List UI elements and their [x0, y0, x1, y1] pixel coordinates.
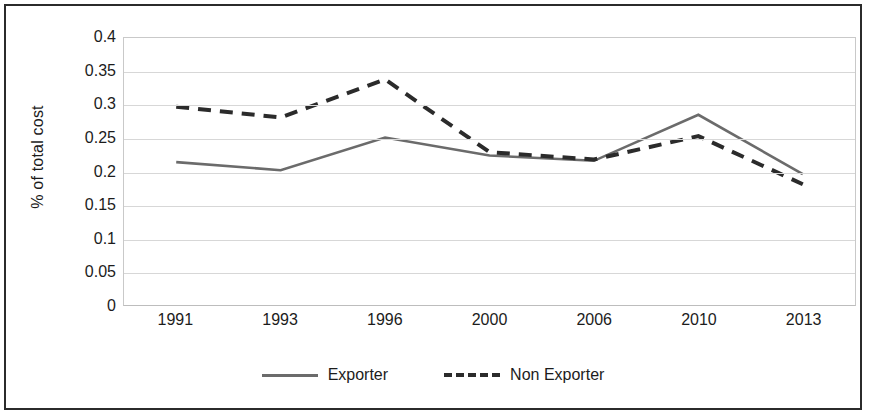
x-axis-tick-label: 2013 [754, 311, 854, 329]
series-lines [124, 38, 855, 305]
x-axis-tick-label: 1991 [125, 311, 225, 329]
gridline [124, 206, 855, 207]
legend-swatch-solid [262, 374, 318, 377]
y-axis-tick-labels: 00.050.10.150.20.250.30.350.4 [50, 37, 116, 306]
series-line-exporter [176, 115, 803, 174]
legend-swatch-dashed [444, 373, 500, 377]
x-axis-tick-label: 2006 [544, 311, 644, 329]
y-axis-tick-label: 0.35 [50, 62, 116, 80]
gridline [124, 72, 855, 73]
x-axis-tick-labels: 1991199319962000200620102013 [123, 311, 856, 341]
x-axis-tick-label: 1993 [230, 311, 330, 329]
y-axis-tick-label: 0.3 [50, 95, 116, 113]
figure-border: % of total cost 00.050.10.150.20.250.30.… [4, 4, 862, 410]
legend-item[interactable]: Exporter [262, 366, 388, 384]
y-axis-tick-label: 0.1 [50, 230, 116, 248]
gridline [124, 240, 855, 241]
y-axis-tick-label: 0.2 [50, 163, 116, 181]
y-axis-tick-label: 0.05 [50, 263, 116, 281]
gridline [124, 273, 855, 274]
gridline [124, 139, 855, 140]
gridline [124, 105, 855, 106]
plot-area [123, 37, 856, 306]
y-axis-tick-label: 0.15 [50, 196, 116, 214]
y-axis-tick-label: 0.4 [50, 28, 116, 46]
legend-label: Exporter [328, 366, 388, 384]
legend-label: Non Exporter [510, 366, 604, 384]
x-axis-tick-label: 1996 [335, 311, 435, 329]
chart-figure: % of total cost 00.050.10.150.20.250.30.… [0, 0, 870, 418]
gridline [124, 173, 855, 174]
x-axis-tick-label: 2000 [440, 311, 540, 329]
y-axis-tick-label: 0.25 [50, 129, 116, 147]
chart-legend: ExporterNon Exporter [6, 366, 860, 384]
y-axis-tick-label: 0 [50, 297, 116, 315]
legend-item[interactable]: Non Exporter [444, 366, 604, 384]
y-axis-title: % of total cost [29, 47, 47, 267]
x-axis-tick-label: 2010 [649, 311, 749, 329]
